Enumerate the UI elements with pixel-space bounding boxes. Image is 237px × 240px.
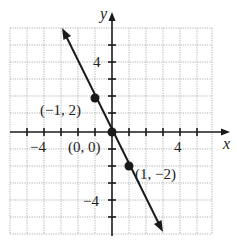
point-1-neg2: [125, 162, 134, 171]
point-origin: [108, 128, 117, 137]
point-label-neg1-2: (−1, 2): [40, 102, 81, 119]
y-axis-label: y: [98, 5, 108, 23]
x-tick-label-4: 4: [174, 139, 182, 155]
point-neg1-2: [91, 94, 100, 103]
x-tick-label-neg4: −4: [30, 139, 46, 155]
y-tick-label-neg4: −4: [83, 193, 99, 209]
x-axis: [10, 128, 230, 136]
arrow-down-icon: [154, 220, 163, 232]
y-tick-label-4: 4: [93, 54, 101, 70]
point-label-origin: (0, 0): [68, 139, 101, 156]
point-label-1-neg2: (1, −2): [135, 166, 176, 183]
coordinate-plane: y x −4 4 4 −4 (−1, 2) (0, 0) (1, −2): [0, 0, 237, 240]
x-axis-label: x: [222, 135, 230, 152]
arrow-up-icon: [62, 28, 71, 40]
